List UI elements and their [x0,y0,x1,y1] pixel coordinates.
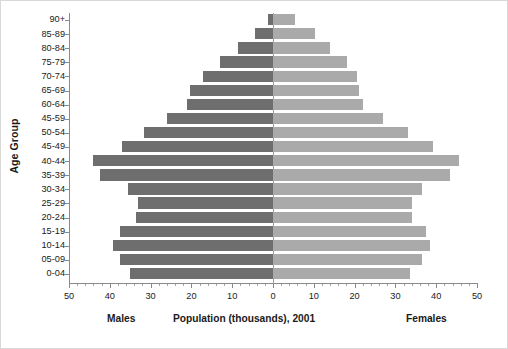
pyramid-row [69,168,477,182]
pyramid-row [69,41,477,55]
bar-female [273,268,410,279]
x-tick-minor [159,284,160,286]
x-tick-minor [371,284,372,286]
x-tick-minor [330,284,331,286]
x-tick-mark [355,284,356,288]
bar-female [273,113,383,124]
x-tick-minor [240,284,241,286]
y-tick-label: 20-24 [19,213,65,222]
x-tick-mark [273,284,274,288]
y-tick-label: 30-34 [19,185,65,194]
x-tick-minor [257,284,258,286]
x-tick-minor [208,284,209,286]
y-tick-label: 10-14 [19,241,65,250]
y-tick-mark [65,105,69,106]
x-tick-minor [428,284,429,286]
bar-male [120,254,273,265]
bar-male [113,240,273,251]
y-tick-label: 15-19 [19,227,65,236]
bar-female [273,169,450,180]
bar-female [273,85,359,96]
x-tick-minor [102,284,103,286]
bar-male [144,127,273,138]
x-tick-label: 10 [299,291,329,301]
x-tick-label: 30 [380,291,410,301]
pyramid-row [69,98,477,112]
bar-male [190,85,273,96]
bar-female [273,197,412,208]
bar-male [128,183,273,194]
y-tick-mark [65,203,69,204]
pyramid-row [69,196,477,210]
x-tick-minor [175,284,176,286]
bar-female [273,240,430,251]
x-tick-minor [281,284,282,286]
bar-female [273,212,412,223]
y-tick-mark [65,20,69,21]
females-side-label: Females [406,313,447,324]
pyramid-row [69,253,477,267]
x-tick-mark [477,284,478,288]
x-tick-minor [404,284,405,286]
x-tick-minor [379,284,380,286]
x-tick-minor [77,284,78,286]
x-tick-minor [93,284,94,286]
x-tick-minor [126,284,127,286]
population-pyramid-chart: Age Group 90+85-8980-8475-7970-7465-6960… [0,0,508,349]
bar-male [255,28,273,39]
bar-male [122,141,273,152]
bar-female [273,99,363,110]
x-tick-minor [412,284,413,286]
bar-male [187,99,273,110]
y-tick-mark [65,232,69,233]
y-tick-mark [65,34,69,35]
bar-female [273,56,347,67]
x-tick-mark [395,284,396,288]
x-tick-minor [183,284,184,286]
x-tick-label: 40 [421,291,451,301]
x-tick-mark [436,284,437,288]
y-tick-mark [65,119,69,120]
bar-male [203,71,273,82]
y-tick-label: 45-49 [19,142,65,151]
bar-female [273,28,315,39]
y-tick-label: 40-44 [19,157,65,166]
bar-female [273,14,295,25]
x-tick-label: 20 [176,291,206,301]
x-tick-mark [191,284,192,288]
x-tick-label: 30 [136,291,166,301]
x-tick-minor [469,284,470,286]
y-tick-mark [65,161,69,162]
y-tick-label: 45-59 [19,114,65,123]
x-tick-label: 40 [95,291,125,301]
x-tick-label: 10 [217,291,247,301]
y-tick-mark [65,218,69,219]
x-tick-minor [134,284,135,286]
y-tick-label: 85-89 [19,30,65,39]
x-tick-mark [110,284,111,288]
x-tick-label: 50 [462,291,492,301]
bar-male [220,56,273,67]
pyramid-row [69,154,477,168]
bar-male [138,197,273,208]
x-tick-minor [387,284,388,286]
x-axis-title: Population (thousands), 2001 [173,313,315,324]
pyramid-row [69,69,477,83]
bar-female [273,254,422,265]
x-tick-minor [346,284,347,286]
pyramid-row [69,55,477,69]
bar-male [93,155,273,166]
x-tick-minor [167,284,168,286]
y-tick-label: 80-84 [19,44,65,53]
y-tick-mark [65,133,69,134]
x-tick-minor [118,284,119,286]
pyramid-row [69,210,477,224]
x-tick-minor [200,284,201,286]
y-tick-mark [65,189,69,190]
x-tick-mark [232,284,233,288]
x-tick-minor [444,284,445,286]
x-tick-minor [453,284,454,286]
bar-male [238,42,273,53]
y-tick-mark [65,48,69,49]
x-tick-minor [420,284,421,286]
